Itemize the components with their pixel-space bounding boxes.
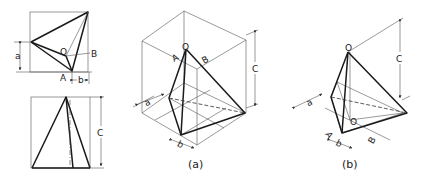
tetrahedron-projection-figure: a b O B A C [0, 0, 423, 182]
point-a-label: A [60, 73, 67, 83]
front-view: C [31, 97, 106, 168]
dim-c-label: C [252, 64, 258, 74]
dim-a-label: a [15, 51, 21, 61]
dim-b-label: b [78, 75, 84, 85]
point-b-label: B [200, 54, 210, 66]
top-view: a b O B A [14, 12, 97, 85]
point-b-label: B [91, 49, 97, 59]
top-view-outline [31, 12, 88, 71]
isometric-view-a: a b C O A B (a) [133, 11, 261, 171]
point-o-top-label: O [345, 43, 352, 53]
point-o-label: O [182, 42, 189, 52]
point-a-label: A [170, 52, 181, 64]
dim-b-label: b [334, 138, 344, 150]
caption-a: (a) [188, 158, 203, 171]
point-a-label: A [323, 130, 335, 141]
caption-b: (b) [342, 158, 358, 171]
point-b-label: B [366, 135, 378, 145]
point-o-base-label: O [350, 117, 357, 127]
point-o-label: O [60, 47, 67, 57]
isometric-view-b: C a b O O A B (b) [295, 18, 410, 171]
dim-c-label: C [396, 54, 402, 64]
dim-c-label: C [97, 128, 103, 138]
